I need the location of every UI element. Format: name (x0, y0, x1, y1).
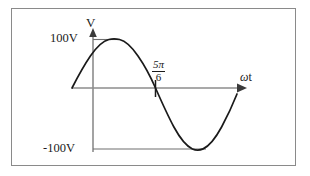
y-axis-label: V (86, 16, 95, 29)
phase-angle-numerator: 5π (152, 59, 165, 72)
positive-peak-label: 100V (50, 32, 78, 45)
x-axis-label-t: t (248, 70, 251, 84)
negative-peak-label: -100V (43, 142, 75, 155)
phase-angle-label: 5π 6 (152, 59, 165, 83)
voltage-waveform-curve (72, 39, 237, 150)
phase-angle-denominator: 6 (152, 72, 165, 84)
x-axis-label: ωt (240, 71, 252, 83)
figure-root: V ωt 100V -100V 5π 6 (0, 0, 310, 176)
x-axis-arrowhead (237, 84, 247, 93)
